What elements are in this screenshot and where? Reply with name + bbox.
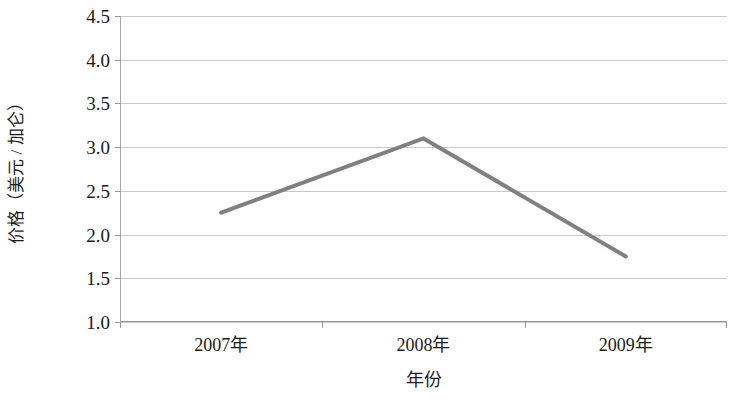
x-tick-label: 2007年 [120,333,322,357]
gridline [120,322,727,323]
price-line [221,138,626,256]
y-tick-label: 3.5 [56,94,110,113]
x-axis-tick-labels: 2007年2008年2009年 [120,333,727,361]
y-tick-label: 2.5 [56,182,110,201]
y-tick-label: 3.0 [56,138,110,157]
x-tick-label: 2009年 [525,333,727,357]
x-axis-title: 年份 [120,368,727,392]
y-axis-tick-labels: 4.54.03.53.02.52.01.51.0 [46,0,110,405]
plot-area [120,16,727,322]
y-tick-label: 4.5 [56,7,110,26]
line-chart: 价格（美元 / 加仑） 4.54.03.53.02.52.01.51.0 200… [0,0,744,405]
y-axis-title: 价格（美元 / 加仑） [0,16,34,322]
y-tick-label: 4.0 [56,51,110,70]
y-tick-label: 2.0 [56,226,110,245]
x-tick-label: 2008年 [322,333,524,357]
y-tick-label: 1.5 [56,269,110,288]
y-tick-label: 1.0 [56,313,110,332]
x-tick-mark [726,321,727,328]
x-tick-mark [525,321,526,328]
series-line-price [120,16,727,322]
x-tick-mark [120,321,121,328]
x-tick-mark [322,321,323,328]
